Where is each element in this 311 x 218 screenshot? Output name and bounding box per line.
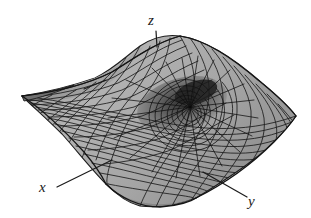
surface-plot-figure: z x y: [0, 0, 311, 218]
surface-plot-canvas: [0, 0, 311, 218]
axis-label-y: y: [248, 194, 255, 209]
axis-label-z: z: [148, 13, 154, 28]
axis-label-x: x: [39, 180, 46, 195]
